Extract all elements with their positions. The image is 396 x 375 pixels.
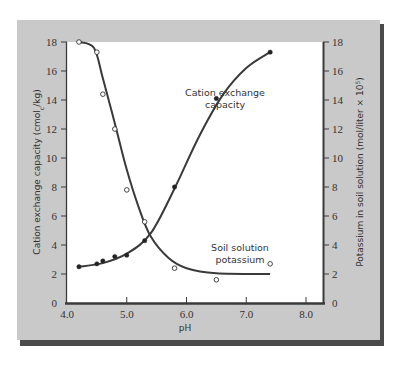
potassium-point	[214, 278, 219, 283]
annotation-cec: Cation exchange	[185, 87, 265, 98]
annotation-k-line2: potassium	[215, 254, 264, 265]
cec-point	[101, 259, 105, 263]
x-tick-label: 8.0	[299, 308, 313, 320]
potassium-point	[172, 266, 177, 271]
plot-area	[67, 42, 323, 303]
potassium-point	[268, 262, 273, 267]
y-tick-label-right: 4	[332, 239, 338, 251]
potassium-point	[142, 220, 147, 225]
x-tick-label: 4.0	[60, 308, 74, 320]
y-tick-label-left: 2	[52, 268, 58, 280]
y-axis-title-right: Potassium in soil solution (mol/liter × …	[354, 77, 366, 267]
y-tick-label-right: 0	[332, 297, 338, 309]
y-tick-label-left: 14	[46, 94, 58, 106]
y-tick-label-left: 18	[46, 36, 58, 48]
cec-point	[125, 253, 129, 257]
annotation-cec-line2: capacity	[205, 99, 245, 110]
y-tick-label-right: 8	[332, 181, 338, 193]
y-tick-label-right: 6	[332, 210, 338, 222]
cec-point	[268, 50, 272, 54]
x-tick-label: 5.0	[120, 308, 134, 320]
cec-point	[77, 265, 81, 269]
potassium-point	[95, 50, 100, 55]
y-tick-label-left: 10	[46, 152, 58, 164]
y-tick-label-left: 8	[52, 181, 58, 193]
potassium-point	[113, 127, 118, 132]
y-tick-label-right: 14	[332, 94, 344, 106]
y-tick-label-right: 16	[332, 65, 344, 77]
cec-point	[113, 254, 117, 258]
cec-point	[172, 185, 176, 189]
x-tick-label: 7.0	[239, 308, 253, 320]
y-tick-label-right: 12	[332, 123, 343, 135]
annotation-k: Soil solution	[211, 242, 269, 253]
y-tick-label-right: 18	[332, 36, 344, 48]
cec-point	[95, 262, 99, 266]
y-tick-label-left: 4	[52, 239, 58, 251]
chart: 024681012141618 024681012141618 4.05.06.…	[0, 0, 396, 375]
y-tick-label-left: 16	[46, 65, 58, 77]
potassium-point	[124, 188, 129, 193]
cec-point	[142, 238, 146, 242]
potassium-point	[77, 40, 82, 45]
y-tick-label-right: 2	[332, 268, 338, 280]
y-tick-label-left: 12	[46, 123, 57, 135]
y-tick-label-right: 10	[332, 152, 344, 164]
y-tick-label-left: 0	[52, 297, 58, 309]
y-tick-label-left: 6	[52, 210, 58, 222]
x-tick-label: 6.0	[180, 308, 194, 320]
x-axis-title: pH	[179, 323, 191, 333]
potassium-point	[101, 92, 106, 97]
